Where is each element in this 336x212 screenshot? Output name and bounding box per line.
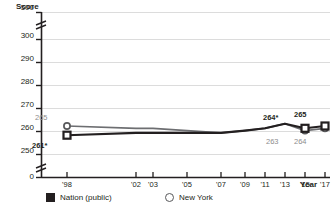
series-line-nation xyxy=(67,124,325,136)
x-tick-09: '09 xyxy=(234,180,256,189)
y-tick-marks xyxy=(36,13,42,178)
data-label-new-york-1998: 265 xyxy=(35,113,48,122)
x-tick-98: '98 xyxy=(56,180,78,189)
legend-label-nation: Nation (public) xyxy=(60,194,112,202)
legend-label-new-york: New York xyxy=(179,194,213,202)
legend-item-nation[interactable]: Nation (public) xyxy=(46,193,112,202)
x-tick-marks xyxy=(67,172,325,178)
x-tick-13: '13 xyxy=(274,180,296,189)
x-tick-17: '17 xyxy=(314,180,336,189)
data-label-nation-2017: 265 xyxy=(294,110,307,119)
legend-square-marker-icon xyxy=(46,193,55,202)
legend-item-new-york[interactable]: New York xyxy=(165,193,213,202)
x-tick-15: '15 xyxy=(294,180,316,189)
data-label-new-york-2015: 263 xyxy=(266,137,279,146)
data-label-nation-1998: 261* xyxy=(32,141,47,150)
x-tick-07: '07 xyxy=(210,180,232,189)
x-tick-05: '05 xyxy=(176,180,198,189)
chart-legend: Nation (public) New York xyxy=(0,192,336,212)
data-label-nation-2015: 264* xyxy=(263,113,278,122)
data-label-new-york-2017: 264 xyxy=(294,137,307,146)
x-tick-03: '03 xyxy=(142,180,164,189)
legend-circle-marker-icon xyxy=(165,193,174,202)
line-chart: Score Year 500 300 290 280 270 260 250 0 xyxy=(0,0,336,212)
x-tick-11: '11 xyxy=(254,180,276,189)
